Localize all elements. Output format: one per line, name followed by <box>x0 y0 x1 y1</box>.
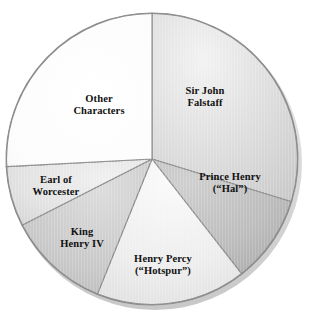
pie-chart-canvas <box>0 0 310 318</box>
pie-slice-texture <box>7 14 298 305</box>
pie-chart: Sir John FalstaffPrince Henry (“Hal”)Hen… <box>0 0 310 318</box>
